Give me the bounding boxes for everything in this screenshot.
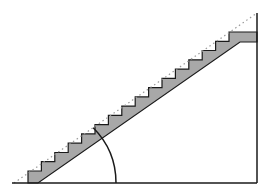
staircase-diagram xyxy=(0,0,268,196)
diagram-canvas xyxy=(0,0,268,196)
staircase-stringer xyxy=(28,32,257,183)
